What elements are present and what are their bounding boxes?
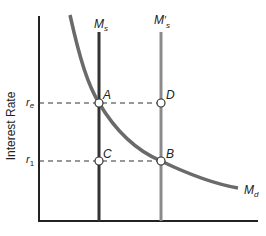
y-axis-label: Interest Rate bbox=[4, 91, 18, 160]
point-c-label: C bbox=[103, 147, 112, 161]
point-a-label: A bbox=[102, 88, 111, 102]
point-a-marker bbox=[95, 99, 103, 107]
point-d-label: D bbox=[166, 88, 175, 102]
point-c-marker bbox=[95, 157, 103, 165]
re-tick-label: re bbox=[26, 96, 35, 110]
point-b-label: B bbox=[166, 147, 174, 161]
ms-label: Ms bbox=[94, 17, 108, 33]
point-b-marker bbox=[157, 157, 165, 165]
r1-tick-label: r1 bbox=[26, 153, 35, 168]
money-market-diagram: A D C B Ms M′s Md re r1 Interest Rate bbox=[0, 0, 266, 236]
ms-prime-label: M′s bbox=[154, 13, 170, 30]
md-label: Md bbox=[244, 183, 259, 199]
point-d-marker bbox=[157, 99, 165, 107]
